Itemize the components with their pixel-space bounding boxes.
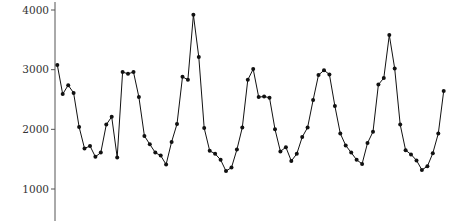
data-markers (55, 13, 445, 173)
data-point (197, 55, 201, 59)
data-point (83, 146, 87, 150)
data-point (338, 132, 342, 136)
data-point (306, 126, 310, 130)
data-point (213, 152, 217, 156)
data-point (219, 158, 223, 162)
data-point (202, 126, 206, 130)
data-point (317, 73, 321, 77)
data-point (159, 154, 163, 158)
y-axis: 1000200030004000 (22, 2, 55, 221)
data-point (425, 164, 429, 168)
data-point (393, 67, 397, 71)
data-point (186, 78, 190, 82)
data-point (409, 152, 413, 156)
data-point (295, 152, 299, 156)
data-point (376, 83, 380, 87)
line-chart: 1000200030004000 (0, 0, 475, 221)
data-point (99, 151, 103, 155)
data-point (246, 78, 250, 82)
data-point (181, 75, 185, 79)
data-point (235, 148, 239, 152)
data-point (104, 123, 108, 127)
data-point (268, 96, 272, 100)
data-point (153, 151, 157, 155)
data-point (88, 144, 92, 148)
data-point (148, 142, 152, 146)
data-point (137, 95, 141, 99)
data-point (55, 63, 59, 67)
y-tick-label: 3000 (22, 63, 49, 75)
data-point (224, 169, 228, 173)
y-tick-label: 4000 (22, 4, 49, 16)
data-point (273, 127, 277, 131)
data-point (382, 76, 386, 80)
data-line (57, 15, 443, 171)
data-point (126, 72, 130, 76)
data-point (398, 123, 402, 127)
data-point (300, 135, 304, 139)
data-point (431, 151, 435, 155)
data-point (262, 95, 266, 99)
data-point (208, 149, 212, 153)
y-ticks: 1000200030004000 (22, 4, 55, 195)
plot-area (55, 13, 445, 173)
data-point (344, 143, 348, 147)
data-point (121, 70, 125, 74)
data-point (115, 155, 119, 159)
data-point (436, 132, 440, 136)
data-point (170, 140, 174, 144)
data-point (442, 89, 446, 93)
data-point (93, 155, 97, 159)
data-point (191, 13, 195, 17)
data-point (284, 145, 288, 149)
data-point (240, 126, 244, 130)
data-point (349, 151, 353, 155)
data-point (110, 115, 114, 119)
data-point (257, 95, 261, 99)
data-point (66, 83, 70, 87)
data-point (251, 67, 255, 71)
data-point (404, 148, 408, 152)
data-point (278, 149, 282, 153)
data-point (366, 141, 370, 145)
data-point (322, 68, 326, 72)
data-point (72, 91, 76, 95)
y-tick-label: 2000 (22, 123, 49, 135)
y-tick-label: 1000 (22, 183, 49, 195)
data-point (230, 166, 234, 170)
data-point (61, 92, 65, 96)
data-point (164, 163, 168, 167)
data-point (355, 158, 359, 162)
data-point (327, 72, 331, 76)
data-point (289, 159, 293, 163)
data-point (175, 122, 179, 126)
data-point (77, 125, 81, 129)
data-point (415, 158, 419, 162)
data-point (360, 162, 364, 166)
data-point (387, 33, 391, 37)
data-point (311, 98, 315, 102)
data-point (142, 134, 146, 138)
data-point (371, 130, 375, 134)
data-point (333, 104, 337, 108)
data-point (420, 168, 424, 172)
data-point (132, 70, 136, 74)
